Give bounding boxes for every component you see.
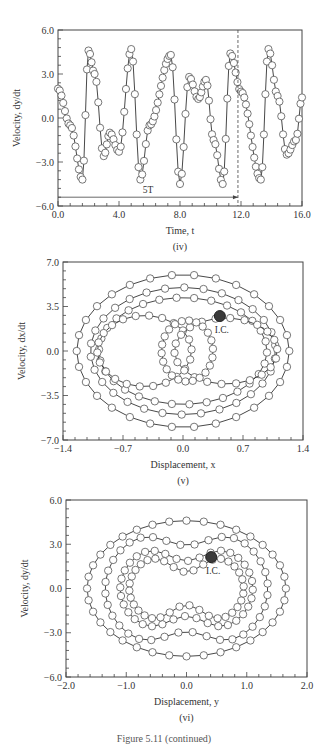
data-marker: [143, 289, 150, 296]
data-marker: [131, 91, 138, 98]
data-marker: [276, 608, 283, 615]
data-marker: [264, 328, 271, 335]
data-marker: [75, 363, 82, 370]
data-marker: [218, 290, 225, 297]
data-marker: [126, 587, 133, 594]
data-marker: [135, 607, 142, 614]
data-marker: [227, 549, 234, 556]
data-marker: [146, 275, 153, 282]
y-tick-label: 0.0: [42, 113, 55, 124]
x-tick-label: 1.0: [241, 680, 254, 691]
data-marker: [286, 347, 293, 354]
data-marker: [159, 409, 166, 416]
data-marker: [267, 50, 274, 57]
data-marker: [278, 113, 285, 120]
data-marker: [241, 94, 248, 101]
data-marker: [60, 99, 67, 106]
data-marker: [298, 94, 305, 101]
data-marker: [125, 630, 132, 637]
data-marker: [180, 143, 187, 150]
data-marker: [70, 132, 77, 139]
data-marker: [181, 612, 188, 619]
data-marker: [264, 580, 271, 587]
data-marker: [191, 541, 198, 548]
data-marker: [171, 96, 178, 103]
data-marker: [127, 594, 134, 601]
data-marker: [196, 374, 203, 381]
data-marker: [196, 606, 203, 613]
data-marker: [186, 602, 193, 609]
data-marker: [259, 541, 266, 548]
chart-v: −1.4−0.70.00.71.4−7.0−3.50.03.57.0Displa…: [16, 257, 309, 488]
data-marker: [203, 399, 210, 406]
data-marker: [281, 597, 288, 604]
x-tick-label: 16.0: [293, 209, 311, 220]
data-marker: [119, 129, 126, 136]
data-marker: [249, 305, 256, 312]
data-marker: [250, 548, 257, 555]
data-marker: [206, 362, 213, 369]
data-marker: [175, 629, 182, 636]
data-marker: [166, 652, 173, 659]
data-marker: [95, 339, 102, 346]
data-marker: [247, 391, 254, 398]
data-marker: [124, 65, 131, 72]
data-marker: [204, 329, 211, 336]
data-marker: [159, 358, 166, 365]
data-marker: [104, 601, 111, 608]
data-marker: [103, 141, 110, 148]
data-marker: [80, 157, 87, 164]
y-tick-label: 6.0: [42, 25, 55, 36]
data-marker: [91, 70, 98, 77]
data-marker: [111, 304, 118, 311]
data-marker: [283, 363, 290, 370]
panel-label: (v): [177, 475, 189, 487]
data-marker: [214, 615, 221, 622]
data-marker: [140, 405, 147, 412]
data-marker: [168, 423, 175, 430]
data-marker: [244, 110, 251, 117]
data-marker: [148, 623, 155, 630]
data-marker: [163, 366, 170, 373]
trajectory-line: [129, 559, 243, 619]
data-marker: [136, 383, 143, 390]
figure-caption: Figure 5.11 (continued): [117, 733, 211, 745]
data-marker: [137, 534, 144, 541]
data-marker: [125, 307, 132, 314]
x-tick-label: 1.4: [297, 443, 310, 454]
data-marker: [117, 547, 124, 554]
data-marker: [262, 91, 269, 98]
data-marker: [265, 392, 272, 399]
chart-iv: 0.04.08.012.016.0−6.0−3.00.03.06.0Time, …: [11, 25, 311, 254]
data-marker: [279, 131, 286, 138]
data-marker: [126, 539, 133, 546]
data-marker: [227, 314, 234, 321]
data-marker: [207, 116, 214, 123]
data-marker: [186, 401, 193, 408]
data-marker: [125, 609, 132, 616]
data-marker: [221, 168, 228, 175]
data-marker: [245, 603, 252, 610]
data-marker: [126, 281, 133, 288]
data-marker: [219, 180, 226, 187]
data-marker: [133, 553, 140, 560]
data-marker: [239, 576, 246, 583]
initial-condition-label: I.C.: [206, 566, 220, 576]
data-marker: [233, 617, 240, 624]
data-marker: [269, 551, 276, 558]
data-marker: [238, 597, 245, 604]
data-marker: [216, 636, 223, 643]
data-marker: [212, 275, 219, 282]
data-marker: [111, 375, 118, 382]
y-tick-label: 0.0: [47, 346, 60, 357]
data-marker: [258, 371, 265, 378]
data-marker: [95, 99, 102, 106]
data-marker: [225, 558, 232, 565]
data-marker: [265, 302, 272, 309]
x-axis-label: Displacement, y: [154, 696, 219, 707]
data-marker: [208, 337, 215, 344]
data-marker: [126, 559, 133, 566]
data-marker: [79, 176, 86, 183]
initial-condition-marker: [214, 311, 225, 322]
data-marker: [172, 340, 179, 347]
